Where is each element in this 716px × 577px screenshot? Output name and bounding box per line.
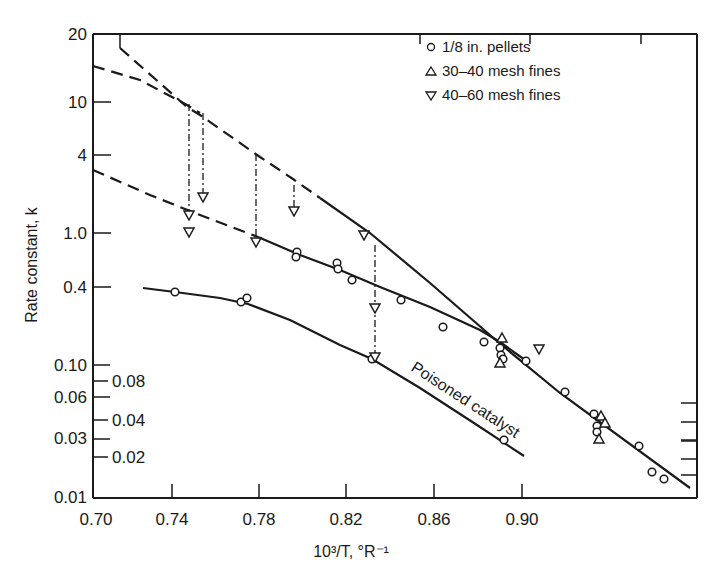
svg-text:0.10: 0.10	[54, 356, 87, 375]
svg-text:0.06: 0.06	[54, 388, 87, 407]
svg-text:0.70: 0.70	[79, 510, 112, 529]
y-ticks-left	[93, 102, 111, 457]
svg-text:0.01: 0.01	[54, 488, 87, 507]
svg-text:0.04: 0.04	[112, 411, 145, 430]
svg-text:0.74: 0.74	[155, 510, 188, 529]
poisoned-catalyst-label: Poisoned catalyst	[408, 358, 523, 441]
svg-text:0.08: 0.08	[112, 372, 145, 391]
svg-text:0.03: 0.03	[54, 429, 87, 448]
legend-label-pellets: 1/8 in. pellets	[442, 38, 530, 55]
svg-text:0.02: 0.02	[112, 448, 145, 467]
legend-triangle-up-icon	[426, 67, 436, 75]
legend-triangle-down-icon	[426, 92, 436, 100]
svg-text:4: 4	[78, 146, 87, 165]
x-ticks	[120, 34, 641, 498]
svg-text:0.90: 0.90	[505, 510, 538, 529]
svg-text:0.4: 0.4	[63, 278, 87, 297]
svg-text:20: 20	[68, 25, 87, 44]
arrhenius-plot: 20 10 4 1.0 0.4 0.10 0.06 0.03 0.01 0.08…	[0, 0, 716, 577]
x-axis-title: 10³/T, °R⁻¹	[313, 543, 389, 560]
legend-circle-icon	[428, 44, 435, 51]
svg-text:0.82: 0.82	[329, 510, 362, 529]
svg-text:1.0: 1.0	[63, 224, 87, 243]
legend: 1/8 in. pellets 30–40 mesh fines 40–60 m…	[426, 38, 560, 103]
svg-text:0.86: 0.86	[417, 510, 450, 529]
legend-label-30-40: 30–40 mesh fines	[442, 62, 560, 79]
y-axis-title: Rate constant, k	[23, 206, 40, 323]
x-tick-labels: 0.70 0.74 0.78 0.82 0.86 0.90	[79, 510, 538, 529]
fit-lines	[93, 48, 690, 488]
y-ticks-right	[681, 403, 697, 475]
svg-text:10: 10	[68, 93, 87, 112]
svg-text:0.78: 0.78	[242, 510, 275, 529]
legend-label-40-60: 40–60 mesh fines	[442, 86, 560, 103]
y-tick-labels: 20 10 4 1.0 0.4 0.10 0.06 0.03 0.01 0.08…	[54, 25, 145, 507]
